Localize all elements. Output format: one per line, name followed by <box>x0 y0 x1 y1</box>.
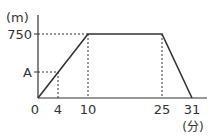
x-label-0: 0 <box>31 102 39 117</box>
y-unit-label: (m) <box>6 10 29 25</box>
x-label-10: 10 <box>80 102 97 117</box>
x-unit-label: (分) <box>182 120 203 134</box>
y-label-750: 750 <box>7 27 32 42</box>
x-label-31: 31 <box>184 102 201 117</box>
x-label-4: 4 <box>54 102 62 117</box>
distance-time-chart: (m) 750 A 0 4 10 25 31 (分) <box>0 0 218 138</box>
x-label-25: 25 <box>154 102 171 117</box>
guide-lines <box>38 34 162 98</box>
y-label-A: A <box>23 65 32 80</box>
distance-line <box>38 34 192 98</box>
